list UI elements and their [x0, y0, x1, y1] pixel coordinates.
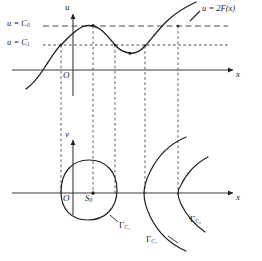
vertical-connectors: [61, 26, 178, 196]
gamma-c1-closed-sub: C₁: [124, 224, 130, 230]
orbit-closed-c1: [61, 160, 117, 220]
upper-plot: [12, 2, 233, 96]
lower-x-axis-label: x: [236, 193, 240, 202]
upper-u-axis-label: u: [65, 3, 70, 12]
gamma-c1-closed-leader: [110, 215, 118, 222]
curve-label-leader: [190, 11, 200, 21]
gamma-c1-open-sub: C₁: [151, 238, 157, 244]
lower-v-axis-label: v: [65, 130, 69, 139]
upper-origin-label: O: [63, 71, 70, 80]
level-label-c0-text: u = C: [7, 18, 27, 28]
level-label-c0-sub: 0: [27, 22, 30, 28]
upper-x-axis-label: x: [236, 70, 240, 79]
touch-point-c1-min: [129, 52, 132, 55]
figure-svg: [0, 0, 262, 261]
lower-plot: [12, 137, 233, 251]
gamma-c1-closed-label: ΓC₁: [119, 221, 130, 231]
figure-container: u x O u = C0 u = C1 u = 2F(x) v x O S0 Γ…: [0, 0, 262, 261]
center-point-s0-sub: 0: [90, 197, 93, 203]
level-label-c1-text: u = C: [7, 37, 27, 47]
gamma-c1-open-label: ΓC₁: [146, 235, 157, 245]
gamma-c0-open-label: ΓC₀: [190, 215, 201, 225]
level-label-c1: u = C1: [7, 38, 30, 48]
curve-label-u-2fx: u = 2F(x): [202, 4, 235, 13]
lower-origin-label: O: [63, 194, 70, 203]
level-label-c1-sub: 1: [27, 41, 30, 47]
level-label-c0: u = C0: [7, 19, 30, 29]
center-point-s0-label: S0: [85, 194, 92, 204]
gamma-c0-open-sub: C₀: [195, 218, 201, 224]
